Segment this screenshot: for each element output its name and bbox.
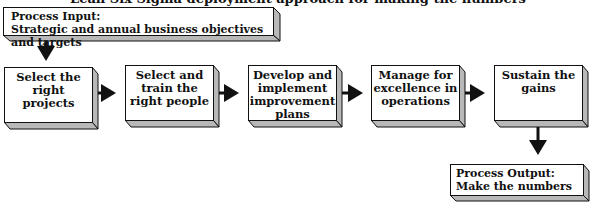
step-select-projects: Select the right projects <box>4 67 99 130</box>
step-face: Develop and implement improvement plans <box>248 65 337 121</box>
process-output-box: Process Output: Make the numbers <box>450 164 590 202</box>
step-text-line: right people <box>126 95 213 108</box>
step-select-train-people: Select and train the right people <box>125 65 220 128</box>
process-output-face: Process Output: Make the numbers <box>450 164 584 196</box>
step-face: Select and train the right people <box>125 65 214 121</box>
process-input-label: Process Input: <box>11 10 273 23</box>
step-sustain-gains: Sustain the gains <box>494 65 589 128</box>
step-text-line: plans <box>249 108 336 121</box>
clipped-figure-title: Lean Six Sigma deployment approach for m… <box>70 0 526 6</box>
process-input-face: Process Input: Strategic and annual busi… <box>3 7 274 36</box>
process-output-text: Make the numbers <box>456 180 583 193</box>
step-face: Sustain the gains <box>494 65 583 121</box>
step-text-line: gains <box>495 82 582 95</box>
process-output-label: Process Output: <box>456 167 583 180</box>
step-text-line: right projects <box>5 84 92 110</box>
step-face: Manage for excellence in operations <box>371 65 460 121</box>
step-text-line: operations <box>372 95 459 108</box>
process-input-text: Strategic and annual business objectives… <box>11 23 273 49</box>
step-develop-plans: Develop and implement improvement plans <box>248 65 343 128</box>
process-input-box: Process Input: Strategic and annual busi… <box>3 7 281 42</box>
step-face: Select the right projects <box>4 67 93 123</box>
step-manage-excellence: Manage for excellence in operations <box>371 65 466 128</box>
